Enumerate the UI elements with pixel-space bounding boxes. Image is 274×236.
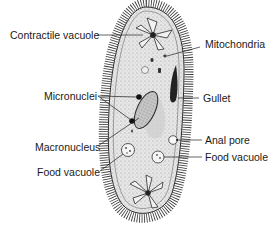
micronucleus-1 [136,94,142,100]
label-macronucleus: Macronucleus [35,141,100,153]
small-vacuole [142,67,149,74]
granule [150,58,153,62]
label-mitochondria: Mitochondria [205,38,265,50]
granule [158,68,161,73]
label-food-vacuole-right: Food vacuole [205,151,268,163]
granule [131,130,133,133]
label-anal-pore: Anal pore [205,134,250,146]
label-gullet: Gullet [203,92,230,104]
food-vacuole-left [122,144,135,157]
label-contractile-vacuole: Contractile vacuole [10,29,99,41]
mitochondrion [163,55,167,58]
label-micronuclei: Micronuclei [44,90,97,102]
food-vacuole-right [152,151,164,163]
anal-pore [169,136,178,145]
label-food-vacuole-left: Food vacuole [37,166,100,178]
